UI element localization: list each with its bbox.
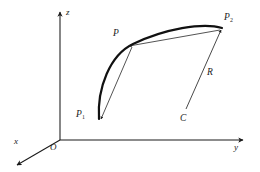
point-label-p: P bbox=[113, 29, 119, 40]
point-label-c: C bbox=[180, 114, 186, 124]
point-label-p1: P1 bbox=[76, 110, 85, 121]
arc-path-p1-p-p2 bbox=[99, 26, 222, 119]
point-label-p2-subscript: 2 bbox=[230, 17, 233, 23]
figure-canvas bbox=[0, 0, 260, 172]
origin-label: O bbox=[50, 143, 57, 152]
point-label-p1-subscript: 1 bbox=[82, 114, 85, 120]
point-label-p2: P2 bbox=[224, 13, 233, 24]
radius-line-c-to-p2 bbox=[186, 30, 221, 109]
axis-label-x: x bbox=[14, 137, 18, 146]
geometry-figure: z y x O P1 P P2 C R bbox=[0, 0, 260, 172]
axis-label-y: y bbox=[234, 143, 238, 152]
point-label-p-base: P bbox=[113, 28, 119, 38]
radius-label-r: R bbox=[207, 68, 213, 78]
axis-label-z: z bbox=[66, 8, 70, 17]
vector-p2-to-p bbox=[129, 30, 220, 46]
point-label-p2-base: P bbox=[224, 12, 230, 22]
point-label-p1-base: P bbox=[76, 109, 82, 119]
